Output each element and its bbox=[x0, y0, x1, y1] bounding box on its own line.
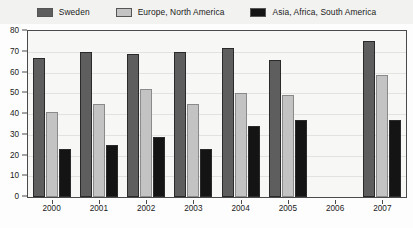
bar bbox=[222, 48, 234, 197]
bar bbox=[187, 104, 199, 197]
bar bbox=[106, 145, 118, 197]
bar bbox=[235, 93, 247, 197]
bar bbox=[174, 52, 186, 197]
legend-swatch-icon bbox=[250, 8, 266, 17]
bar-group bbox=[127, 31, 165, 197]
y-tick-label: 30 bbox=[10, 129, 19, 138]
bar-group bbox=[80, 31, 118, 197]
plot-area bbox=[27, 30, 407, 198]
y-tick-label: 10 bbox=[10, 171, 19, 180]
bar-group bbox=[222, 31, 260, 197]
x-tick-label: 2004 bbox=[232, 204, 250, 213]
legend-swatch-icon bbox=[116, 8, 132, 17]
bar bbox=[80, 52, 92, 197]
x-tick-label: 2003 bbox=[184, 204, 202, 213]
bar bbox=[153, 137, 165, 197]
x-axis: 20002001200220032004200520062007 bbox=[27, 200, 407, 222]
bar-group bbox=[33, 31, 71, 197]
chart-legend: SwedenEurope, North AmericaAsia, Africa,… bbox=[0, 0, 413, 24]
legend-label: Europe, North America bbox=[138, 7, 225, 17]
bar-group bbox=[363, 31, 401, 197]
bar bbox=[376, 75, 388, 197]
bar bbox=[282, 95, 294, 197]
y-tick-label: 80 bbox=[10, 26, 19, 35]
bar bbox=[33, 58, 45, 197]
y-tick-label: 0 bbox=[14, 192, 19, 201]
y-axis: 01020304050607080 bbox=[0, 30, 24, 198]
bar bbox=[46, 112, 58, 197]
x-tick-label: 2007 bbox=[373, 204, 391, 213]
bar bbox=[269, 60, 281, 197]
bar-group bbox=[316, 31, 354, 197]
x-tick-label: 2001 bbox=[90, 204, 108, 213]
x-tick-label: 2000 bbox=[43, 204, 61, 213]
bar bbox=[363, 41, 375, 197]
legend-label: Sweden bbox=[59, 7, 90, 17]
legend-entry[interactable]: Europe, North America bbox=[116, 7, 225, 17]
y-tick-label: 20 bbox=[10, 150, 19, 159]
y-tick-label: 40 bbox=[10, 109, 19, 118]
y-tick-label: 60 bbox=[10, 67, 19, 76]
x-tick-label: 2005 bbox=[279, 204, 297, 213]
bar bbox=[200, 149, 212, 197]
bar-chart: SwedenEurope, North AmericaAsia, Africa,… bbox=[0, 0, 413, 228]
bar-group bbox=[269, 31, 307, 197]
bar-group bbox=[174, 31, 212, 197]
y-tick-label: 50 bbox=[10, 88, 19, 97]
x-tick-label: 2006 bbox=[326, 204, 344, 213]
legend-entry[interactable]: Asia, Africa, South America bbox=[250, 7, 376, 17]
bar bbox=[140, 89, 152, 197]
bar bbox=[295, 120, 307, 197]
bar bbox=[59, 149, 71, 197]
bar bbox=[389, 120, 401, 197]
legend-label: Asia, Africa, South America bbox=[272, 7, 376, 17]
bar bbox=[248, 126, 260, 197]
bar bbox=[127, 54, 139, 197]
legend-entry[interactable]: Sweden bbox=[37, 7, 90, 17]
y-tick-label: 70 bbox=[10, 46, 19, 55]
x-tick-label: 2002 bbox=[137, 204, 155, 213]
legend-swatch-icon bbox=[37, 8, 53, 17]
bar bbox=[93, 104, 105, 197]
